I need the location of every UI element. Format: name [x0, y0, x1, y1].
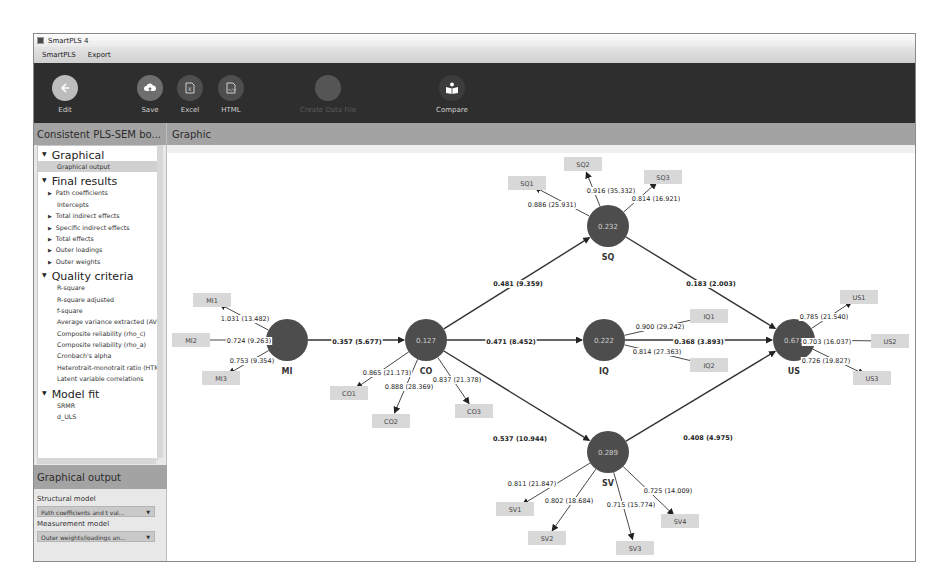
tree-item-intercepts[interactable]: Intercepts	[38, 199, 157, 210]
r-square-co: 0.127	[416, 337, 436, 345]
collapse-triangle-icon: ▼	[42, 176, 47, 183]
indicator-name-sv1: SV1	[509, 506, 522, 514]
tree-item-latent-variable-correlations[interactable]: Latent variable correlations	[38, 373, 157, 384]
outer-loading-sq2: 0.916 (35.332)	[587, 187, 636, 195]
tree-item-outer-weights[interactable]: ▶Outer weights	[38, 256, 157, 267]
construct-name-iq: IQ	[599, 367, 609, 376]
r-square-sv: 0.289	[598, 449, 618, 457]
graphic-panel-title: Graphic	[167, 123, 915, 145]
menu-bar: SmartPLS Export	[34, 47, 915, 63]
path-model-diagram: MI1MI2MI3CO1CO2CO3SQ1SQ2SQ3IQ1IQ2SV1SV2S…	[167, 145, 916, 562]
r-square-sq: 0.232	[598, 223, 618, 231]
outer-loading-iq2: 0.814 (27.363)	[633, 348, 682, 356]
indicator-name-iq1: IQ1	[703, 313, 714, 321]
tree-horizontal-scrollbar[interactable]	[37, 458, 156, 464]
create-data-file-button[interactable]: Create Data File	[298, 63, 358, 123]
tree-item-ave[interactable]: Average variance extracted (AVE)	[38, 316, 157, 327]
indicator-name-us2: US2	[883, 338, 896, 346]
tree-item-composite-reliability-rho-c[interactable]: Composite reliability (rho_c)	[38, 328, 157, 339]
path-coefficient-co-sq: 0.481 (9.359)	[493, 280, 542, 288]
indicator-name-mi2: MI2	[185, 337, 197, 345]
tree-item-htmt[interactable]: Heterotrait-monotrait ratio (HTMT)	[38, 362, 157, 373]
structural-model-label: Structural model	[37, 495, 96, 503]
collapse-triangle-icon: ▼	[42, 150, 47, 157]
indicator-name-sv4: SV4	[674, 518, 687, 526]
indicator-name-sq1: SQ1	[520, 180, 533, 188]
tree-item-r-square[interactable]: R-square	[38, 282, 157, 293]
html-file-icon: </>	[218, 75, 244, 101]
chevron-down-icon: ▼	[146, 532, 150, 542]
indicator-name-co1: CO1	[342, 390, 356, 398]
path-coefficient-co-sv: 0.537 (10.944)	[493, 435, 547, 443]
section-model-fit[interactable]: ▼Model fit	[38, 385, 157, 400]
indicator-name-co2: CO2	[384, 418, 398, 426]
path-coefficient-sv-us: 0.408 (4.975)	[683, 434, 732, 442]
construct-name-mi: MI	[282, 367, 293, 376]
path-coefficient-mi-co: 0.357 (5.677)	[332, 338, 381, 346]
outer-loading-co2: 0.888 (28.369)	[385, 383, 434, 391]
indicator-name-sv3: SV3	[629, 545, 642, 553]
expand-triangle-icon: ▶	[48, 259, 52, 265]
outer-loading-sv2: 0.802 (18.684)	[545, 497, 594, 505]
section-final-results[interactable]: ▼Final results	[38, 172, 157, 187]
indicator-name-sv2: SV2	[541, 535, 554, 543]
construct-mi[interactable]	[266, 319, 308, 361]
expand-triangle-icon: ▶	[48, 190, 52, 196]
measurement-model-select[interactable]: Outer weights/loadings an...▼	[37, 531, 155, 542]
outer-loading-iq1: 0.900 (29.242)	[636, 323, 685, 331]
tree-vertical-scrollbar[interactable]	[157, 145, 163, 458]
path-coefficient-iq-us: 0.368 (3.893)	[674, 338, 723, 346]
indicator-name-sq2: SQ2	[576, 161, 589, 169]
tree-item-total-effects[interactable]: ▶Total effects	[38, 233, 157, 244]
tree-item-d-uls[interactable]: d_ULS	[38, 411, 157, 422]
html-button[interactable]: </> HTML	[206, 63, 256, 123]
structural-model-select[interactable]: Path coefficients and t val...▼	[37, 506, 155, 517]
arrow-left-icon	[52, 75, 78, 101]
path-arrow-co-sv[interactable]	[444, 351, 589, 440]
svg-text:X: X	[188, 86, 192, 92]
tree-item-f-square[interactable]: f-square	[38, 305, 157, 316]
tree-item-composite-reliability-rho-a[interactable]: Composite reliability (rho_a)	[38, 339, 157, 350]
construct-name-us: US	[788, 367, 800, 376]
section-graphical[interactable]: ▼Graphical	[38, 146, 157, 161]
create-file-icon	[315, 75, 341, 101]
tree-item-r-square-adjusted[interactable]: R-square adjusted	[38, 294, 157, 305]
r-square-us: 0.671	[784, 337, 804, 345]
edit-button[interactable]: Edit	[40, 63, 90, 123]
outer-loading-co1: 0.865 (21.173)	[363, 369, 412, 377]
sidebar: Consistent PLS-SEM bo... ▼Graphical Grap…	[34, 123, 167, 561]
model-canvas[interactable]: MI1MI2MI3CO1CO2CO3SQ1SQ2SQ3IQ1IQ2SV1SV2S…	[167, 145, 915, 561]
section-quality-criteria[interactable]: ▼Quality criteria	[38, 267, 157, 282]
indicator-name-mi3: MI3	[215, 375, 227, 383]
path-coefficient-co-iq: 0.471 (8.452)	[486, 338, 535, 346]
app-window: SmartPLS 4 SmartPLS Export Edit Save X E…	[33, 33, 916, 562]
menu-smartpls[interactable]: SmartPLS	[42, 51, 76, 59]
compare-button[interactable]: Compare	[427, 63, 477, 123]
tree-item-path-coefficients[interactable]: ▶Path coefficients	[38, 187, 157, 198]
chevron-down-icon: ▼	[146, 507, 150, 517]
collapse-triangle-icon: ▼	[42, 389, 47, 396]
indicator-name-us3: US3	[865, 375, 878, 383]
tree-item-srmr[interactable]: SRMR	[38, 400, 157, 411]
expand-triangle-icon: ▶	[48, 247, 52, 253]
app-icon	[37, 37, 44, 44]
indicator-name-us1: US1	[852, 294, 865, 302]
outer-loading-sv3: 0.715 (15.774)	[607, 501, 656, 509]
sidebar-title: Consistent PLS-SEM bo...	[34, 123, 166, 145]
tree-item-graphical-output[interactable]: Graphical output	[38, 161, 157, 172]
collapse-triangle-icon: ▼	[42, 271, 47, 278]
indicator-name-iq2: IQ2	[703, 362, 714, 370]
title-bar: SmartPLS 4	[34, 34, 915, 47]
indicator-name-co3: CO3	[467, 408, 481, 416]
outer-loading-us2: 0.703 (16.037)	[803, 338, 852, 346]
tree-item-specific-indirect-effects[interactable]: ▶Specific indirect effects	[38, 222, 157, 233]
tree-item-cronbachs-alpha[interactable]: Cronbach's alpha	[38, 350, 157, 361]
tree-item-outer-loadings[interactable]: ▶Outer loadings	[38, 244, 157, 255]
outer-loading-us1: 0.785 (21.540)	[800, 313, 849, 321]
toolbar: Edit Save X Excel </> HTML Create Data F…	[34, 63, 915, 123]
outer-loading-sv4: 0.725 (14.009)	[644, 487, 693, 495]
outer-loading-sq3: 0.814 (16.921)	[632, 195, 681, 203]
tree-item-total-indirect-effects[interactable]: ▶Total indirect effects	[38, 210, 157, 221]
path-coefficient-sq-us: 0.183 (2.003)	[686, 280, 735, 288]
menu-export[interactable]: Export	[88, 51, 111, 59]
